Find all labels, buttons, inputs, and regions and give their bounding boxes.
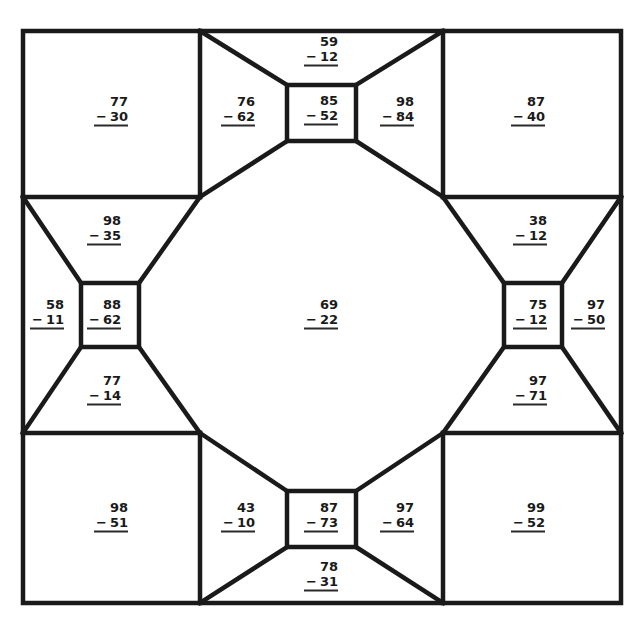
problem-left-top-trapezoid: 98−35 — [87, 213, 121, 246]
subtrahend: 35 — [103, 228, 121, 243]
minuend: 38 — [513, 213, 547, 228]
problem-corner-bottom-left: 98−51 — [94, 500, 128, 533]
subtrahend-row: −30 — [94, 109, 128, 127]
minus-sign: − — [382, 109, 393, 124]
subtrahend: 71 — [529, 388, 547, 403]
subtrahend: 22 — [320, 312, 338, 327]
minus-sign: − — [515, 312, 526, 327]
minuend: 77 — [94, 94, 128, 109]
problem-corner-top-left: 77−30 — [94, 94, 128, 127]
right-diag-2 — [562, 197, 621, 283]
right-diag-3 — [443, 347, 504, 433]
minus-sign: − — [306, 574, 317, 589]
subtrahend: 62 — [103, 312, 121, 327]
subtrahend-row: −62 — [221, 109, 255, 127]
subtrahend: 11 — [46, 312, 64, 327]
subtrahend-row: −73 — [304, 515, 338, 533]
problem-top-left-trapezoid: 76−62 — [221, 94, 255, 127]
subtrahend: 52 — [527, 515, 545, 530]
subtrahend: 73 — [320, 515, 338, 530]
minus-sign: − — [306, 108, 317, 123]
subtrahend-row: −12 — [304, 49, 338, 67]
left-diag-3 — [23, 347, 81, 433]
minuend: 77 — [87, 373, 121, 388]
subtrahend-row: −14 — [87, 388, 121, 406]
problem-right-bottom-trapezoid: 97−71 — [513, 373, 547, 406]
subtrahend-row: −35 — [87, 228, 121, 246]
subtrahend: 52 — [320, 108, 338, 123]
subtrahend: 14 — [103, 388, 121, 403]
subtrahend: 84 — [396, 109, 414, 124]
subtrahend: 62 — [237, 109, 255, 124]
top-diag-4 — [356, 141, 443, 197]
minus-sign: − — [515, 388, 526, 403]
left-diag-2 — [139, 197, 200, 283]
subtrahend: 64 — [396, 515, 414, 530]
subtrahend-row: −31 — [304, 574, 338, 592]
minuend: 59 — [304, 34, 338, 49]
minuend: 97 — [513, 373, 547, 388]
problem-center-octagon: 69−22 — [304, 297, 338, 330]
problem-right-center-box: 75−12 — [513, 297, 547, 330]
problem-left-bottom-trapezoid: 77−14 — [87, 373, 121, 406]
problem-right-outer-trapezoid: 97−50 — [571, 297, 605, 330]
problem-bottom-center-box: 87−73 — [304, 500, 338, 533]
problem-bottom-trapezoid: 78−31 — [304, 559, 338, 592]
subtrahend: 31 — [320, 574, 338, 589]
problem-corner-top-right: 87−40 — [511, 94, 545, 127]
minuend: 98 — [380, 94, 414, 109]
minus-sign: − — [89, 312, 100, 327]
minuend: 87 — [511, 94, 545, 109]
problem-corner-bottom-right: 99−52 — [511, 500, 545, 533]
top-diag-2 — [356, 31, 443, 85]
right-diag-1 — [443, 197, 504, 283]
bottom-diag-1 — [200, 433, 287, 491]
minuend: 69 — [304, 297, 338, 312]
minuend: 58 — [30, 297, 64, 312]
subtrahend: 50 — [587, 312, 605, 327]
left-diag-4 — [139, 347, 200, 433]
minuend: 98 — [94, 500, 128, 515]
subtrahend-row: −64 — [380, 515, 414, 533]
problem-top-trapezoid: 59−12 — [304, 34, 338, 67]
subtrahend-row: −12 — [513, 228, 547, 246]
minus-sign: − — [96, 515, 107, 530]
minus-sign: − — [306, 49, 317, 64]
minus-sign: − — [382, 515, 393, 530]
right-diag-4 — [562, 347, 621, 433]
minuend: 97 — [571, 297, 605, 312]
bottom-diag-2 — [356, 433, 443, 491]
minus-sign: − — [32, 312, 43, 327]
minuend: 97 — [380, 500, 414, 515]
subtrahend: 12 — [320, 49, 338, 64]
minus-sign: − — [513, 515, 524, 530]
minus-sign: − — [513, 109, 524, 124]
minuend: 99 — [511, 500, 545, 515]
minuend: 76 — [221, 94, 255, 109]
minuend: 85 — [304, 93, 338, 108]
subtrahend-row: −40 — [511, 109, 545, 127]
subtrahend-row: −62 — [87, 312, 121, 330]
minus-sign: − — [89, 228, 100, 243]
subtrahend-row: −22 — [304, 312, 338, 330]
minus-sign: − — [515, 228, 526, 243]
minuend: 98 — [87, 213, 121, 228]
problem-top-center-box: 85−52 — [304, 93, 338, 126]
bottom-diag-3 — [200, 547, 287, 603]
minuend: 43 — [221, 500, 255, 515]
subtrahend: 12 — [529, 228, 547, 243]
subtrahend-row: −11 — [30, 312, 64, 330]
top-diag-3 — [200, 141, 287, 197]
problem-top-right-trapezoid: 98−84 — [380, 94, 414, 127]
subtrahend-row: −71 — [513, 388, 547, 406]
problem-right-top-trapezoid: 38−12 — [513, 213, 547, 246]
minus-sign: − — [306, 515, 317, 530]
subtrahend: 10 — [237, 515, 255, 530]
problem-bottom-left-trapezoid: 43−10 — [221, 500, 255, 533]
subtrahend: 12 — [529, 312, 547, 327]
minuend: 78 — [304, 559, 338, 574]
bottom-diag-4 — [356, 547, 443, 603]
minuend: 88 — [87, 297, 121, 312]
subtrahend-row: −52 — [511, 515, 545, 533]
subtrahend-row: −12 — [513, 312, 547, 330]
